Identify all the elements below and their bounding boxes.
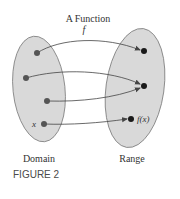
domain-point-3 — [44, 98, 50, 104]
domain-set — [8, 34, 71, 145]
domain-point-1 — [34, 50, 40, 56]
range-label: Range — [119, 153, 145, 164]
range-point-fx — [128, 116, 134, 122]
domain-point-2 — [23, 75, 29, 81]
range-point-2 — [141, 83, 147, 89]
range-set — [98, 25, 172, 152]
function-symbol: f — [83, 24, 87, 35]
output-label: f(x) — [137, 114, 150, 124]
domain-point-x — [41, 121, 47, 127]
figure-caption: FIGURE 2 — [13, 169, 60, 180]
domain-label: Domain — [23, 153, 55, 164]
input-label: x — [31, 119, 36, 129]
figure-title: A Function — [66, 13, 111, 24]
function-diagram: A Function f x f(x) Domain Range FIGURE … — [0, 0, 180, 199]
range-point-1 — [141, 48, 147, 54]
